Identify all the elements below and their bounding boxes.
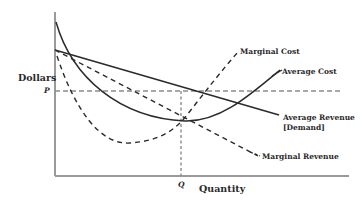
average-cost-label: Average Cost: [282, 68, 337, 76]
marginal-cost-label: Marginal Cost: [240, 48, 300, 56]
demand-label: [Demand]: [283, 124, 325, 132]
average-cost-leader: [272, 70, 282, 76]
average-revenue-label: Average Revenue: [283, 114, 355, 122]
price-tick-label: P: [44, 87, 50, 95]
quantity-tick-label: Q: [178, 181, 185, 189]
marginal-revenue-label: Marginal Revenue: [262, 153, 339, 161]
diagram-canvas: [0, 0, 362, 202]
average-revenue-curve: [55, 50, 279, 115]
cost-revenue-diagram: Dollars P Q Quantity Marginal Cost Avera…: [0, 0, 362, 202]
x-axis-label: Quantity: [199, 184, 245, 194]
marginal-revenue-curve: [55, 50, 258, 156]
marginal-revenue-leader: [250, 152, 260, 156]
y-axis-label: Dollars: [18, 73, 56, 83]
